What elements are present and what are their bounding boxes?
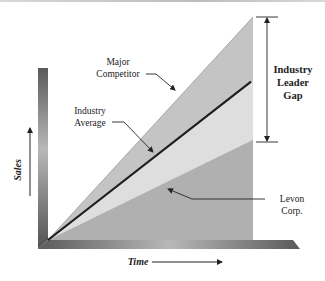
gap-label-line2: Leader bbox=[277, 77, 309, 88]
chart-canvas: Sales Time Major Competitor Industry Ave… bbox=[0, 0, 325, 281]
major-competitor-label-line2: Competitor bbox=[96, 69, 140, 79]
industry-average-label-line2: Average bbox=[74, 118, 105, 128]
gap-label-line3: Gap bbox=[283, 90, 302, 101]
industry-average-label-line1: Industry bbox=[74, 106, 106, 116]
major-competitor-pointer-icon bbox=[146, 74, 175, 90]
gap-label-line1: Industry bbox=[273, 64, 313, 75]
y-axis-bar bbox=[38, 68, 48, 249]
levon-label-line2: Corp. bbox=[281, 206, 302, 216]
major-competitor-label-line1: Major bbox=[106, 57, 130, 67]
x-axis-label: Time bbox=[128, 256, 149, 267]
y-axis-label: Sales bbox=[12, 159, 23, 181]
x-axis-bar bbox=[38, 240, 300, 249]
levon-label-line1: Levon bbox=[280, 194, 305, 204]
